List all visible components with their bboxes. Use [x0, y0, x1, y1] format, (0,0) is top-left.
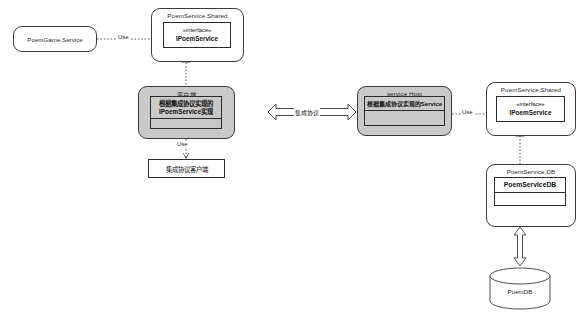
node-ipoemservice-right[interactable]: «interface» IPoemService — [496, 96, 565, 122]
edge-label-use-client-protocol: Use — [176, 141, 189, 147]
node-poemservicedb-class[interactable]: PoemServiceDB — [494, 177, 566, 206]
poemservicedb-class-label: PoemServiceDB — [495, 181, 565, 189]
node-poemgame-service[interactable]: PoemGame.Service — [13, 26, 97, 52]
ipoemservice-left-name: IPoemService — [164, 35, 230, 43]
db-package-label: PoemService.DB — [487, 168, 575, 175]
edge-label-use-left: Use — [117, 34, 130, 40]
ipoemservice-left-stereotype: «interface» — [164, 27, 230, 35]
service-host-divider — [365, 110, 444, 111]
poemservicedb-divider — [495, 192, 565, 193]
shared-right-package-label: PoemService.Shared — [487, 86, 575, 93]
node-ipoemservice-left[interactable]: «interface» IPoemService — [163, 22, 231, 48]
service-host-class-label: 根据集成协议实现的Service — [365, 100, 444, 108]
client-impl-line2: IPoemService实现 — [151, 108, 221, 116]
diagram-canvas: PoemGame.Service PoemService.Shared «int… — [0, 0, 584, 318]
poemgame-service-label: PoemGame.Service — [14, 36, 96, 43]
shared-left-package-label: PoemService.Shared — [152, 12, 243, 19]
edge-db-link — [514, 227, 526, 266]
node-protocol-client[interactable]: 集成协议客户端 — [148, 159, 225, 178]
ipoemservice-right-name: IPoemService — [497, 109, 564, 117]
edge-label-use-right: Use — [461, 109, 474, 115]
client-impl-line1: 根据集成协议实现的 — [151, 100, 221, 108]
node-client-impl-class[interactable]: 根据集成协议实现的 IPoemService实现 — [150, 96, 222, 129]
client-impl-divider — [151, 118, 221, 119]
database-label: PoemDB — [490, 288, 550, 295]
ipoemservice-right-stereotype: «interface» — [497, 101, 564, 109]
protocol-client-label: 集成协议客户端 — [149, 166, 224, 174]
edge-label-integration-protocol: 集成协议 — [294, 108, 320, 117]
node-service-host-class[interactable]: 根据集成协议实现的Service — [364, 96, 445, 126]
